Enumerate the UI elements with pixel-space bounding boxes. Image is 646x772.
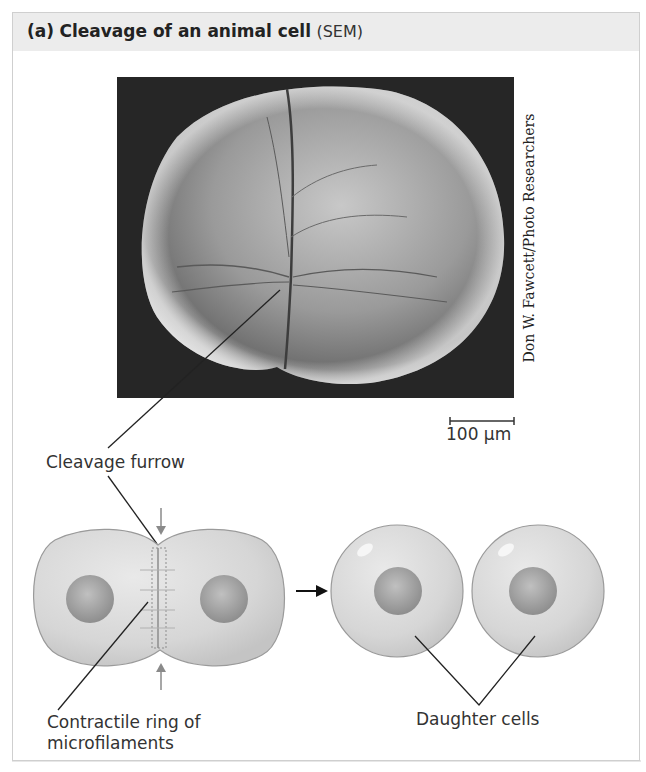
label-cleavage-furrow: Cleavage furrow	[46, 452, 185, 473]
label-contractile-ring: Contractile ring of microfilaments	[47, 712, 201, 754]
daughter-nucleus-left	[374, 567, 422, 615]
process-arrow-icon	[296, 585, 328, 597]
label-contractile-ring-line1: Contractile ring of	[47, 712, 201, 733]
daughter-nucleus-right	[509, 567, 557, 615]
label-daughter-cells: Daughter cells	[416, 709, 539, 730]
leader-line-furrow-photo	[108, 290, 280, 448]
daughter-cell-right	[472, 525, 604, 657]
nucleus-right	[200, 575, 248, 623]
pinch-arrow-top-icon	[156, 508, 166, 535]
cell-division-diagram	[0, 0, 646, 772]
pinch-arrow-bottom-icon	[156, 663, 166, 690]
daughter-cell-left	[331, 525, 463, 657]
nucleus-left	[66, 575, 114, 623]
dividing-cell	[34, 529, 285, 666]
label-contractile-ring-line2: microfilaments	[47, 733, 201, 754]
